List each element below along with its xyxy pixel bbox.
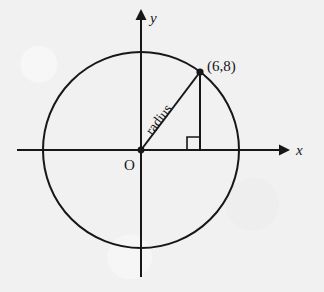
origin-label: O <box>124 157 135 173</box>
x-axis-label: x <box>295 142 303 158</box>
origin-dot <box>138 147 145 154</box>
point-dot <box>196 68 203 75</box>
radius-label: radius <box>142 101 175 137</box>
point-label: (6,8) <box>207 58 236 75</box>
circle-radius-diagram: y x O (6,8) radius <box>0 0 324 292</box>
y-axis-arrowhead <box>136 9 147 20</box>
right-angle-marker <box>187 137 200 150</box>
y-axis-label: y <box>148 10 157 26</box>
x-axis-arrowhead <box>279 145 290 156</box>
